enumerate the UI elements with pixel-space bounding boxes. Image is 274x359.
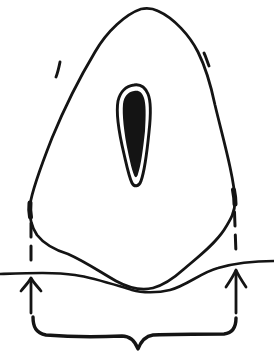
width-measurement-diagram	[0, 0, 274, 359]
left-widest-point-mark	[30, 203, 31, 217]
left-arrow	[21, 278, 41, 313]
width-brace	[33, 317, 236, 349]
right-dashed-guide	[235, 212, 237, 254]
right-arrow	[226, 270, 246, 313]
right-widest-point-mark	[234, 190, 236, 204]
left-accent-tick	[56, 62, 60, 77]
figure-canvas	[0, 0, 274, 359]
